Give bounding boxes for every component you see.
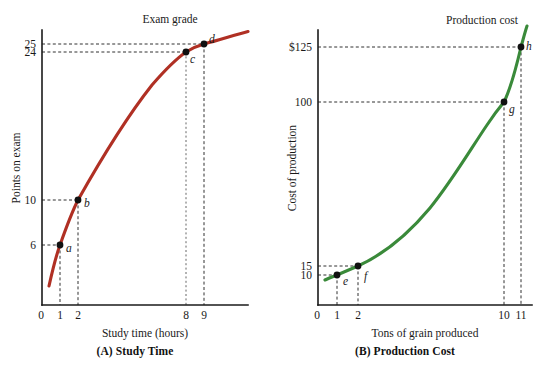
point-label-c: c [190,53,195,65]
panel-caption-b: (B) Production Cost [270,345,540,357]
x-tick-0: 0 [314,309,320,321]
y-tick-6: 6 [30,239,36,251]
x-tick-0: 0 [38,309,44,321]
figure-root: a b c d Exam grade 25 24 10 6 0 1 2 8 9 … [0,0,540,371]
x-tick-11: 11 [515,309,526,321]
y-tick-125: $125 [289,41,312,53]
y-tick-100: 100 [295,96,313,108]
x-tick-10: 10 [498,309,510,321]
point-g [501,99,508,106]
curve-label-production-cost: Production cost [446,14,519,26]
point-label-f: f [364,270,369,283]
point-h [518,44,525,51]
point-label-d: d [209,33,215,45]
point-d [201,41,208,48]
chart-study-time: a b c d Exam grade 25 24 10 6 0 1 2 8 9 … [0,0,270,371]
point-label-e: e [343,275,348,287]
panel-study-time: a b c d Exam grade 25 24 10 6 0 1 2 8 9 … [0,0,270,371]
point-label-h: h [526,40,532,52]
point-e [334,272,341,279]
x-tick-2: 2 [355,309,361,321]
y-axis-title: Cost of production [286,125,299,211]
x-axis-title: Study time (hours) [102,327,188,340]
y-tick-24: 24 [25,46,37,58]
panel-production-cost: e f g h Production cost $125 100 15 10 0… [270,0,540,371]
panel-caption-a: (A) Study Time [0,345,270,357]
x-tick-8: 8 [183,309,189,321]
point-label-g: g [509,103,515,116]
y-axis-title: Points on exam [10,132,22,203]
x-tick-2: 2 [75,309,81,321]
point-label-b: b [84,197,90,209]
y-tick-10: 10 [301,269,313,281]
curve-production-cost [325,26,527,280]
curve-label-exam-grade: Exam grade [142,13,197,26]
point-a [57,242,64,249]
x-tick-1: 1 [334,309,340,321]
point-f [355,263,362,270]
y-tick-10: 10 [25,194,37,206]
x-axis-title: Tons of grain produced [372,327,479,340]
point-b [75,197,82,204]
x-tick-1: 1 [57,309,63,321]
point-c [183,49,190,56]
point-label-a: a [66,242,72,254]
curve-exam-grade [49,32,248,287]
chart-production-cost: e f g h Production cost $125 100 15 10 0… [270,0,540,371]
x-tick-9: 9 [201,309,207,321]
